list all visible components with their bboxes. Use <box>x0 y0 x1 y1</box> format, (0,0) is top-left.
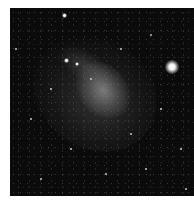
bright-star <box>64 58 69 63</box>
faint-star <box>30 118 32 120</box>
bright-star <box>75 62 79 66</box>
galaxy-photo <box>10 8 194 196</box>
faint-star <box>50 88 52 90</box>
faint-star <box>15 48 17 50</box>
faint-star <box>105 173 107 175</box>
star-field-grain <box>10 8 194 196</box>
bright-star <box>62 13 67 18</box>
faint-star <box>180 148 182 150</box>
faint-star <box>150 34 152 36</box>
faint-star <box>40 178 42 180</box>
faint-star <box>120 48 122 50</box>
faint-star <box>145 168 147 170</box>
bright-star <box>165 60 179 74</box>
faint-star <box>185 188 187 190</box>
faint-star <box>90 78 92 80</box>
faint-star <box>130 133 132 135</box>
faint-star <box>160 108 162 110</box>
faint-star <box>70 148 72 150</box>
